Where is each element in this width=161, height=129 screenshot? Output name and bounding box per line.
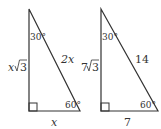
top-angle-label: 30° [102,32,118,42]
triangle-outline [101,9,158,111]
vertical-side-radicand: 3 [92,61,99,74]
hypotenuse-label: 14 [135,53,149,66]
triangle-general: 30° 60° 2x x x 3 [8,9,81,129]
hypotenuse-label: 2x [60,53,75,66]
right-angle-marker [101,103,109,111]
triangle-example: 30° 60° 14 7 7 3 [81,9,158,129]
bottom-right-angle-label: 60° [140,100,156,110]
bottom-right-angle-label: 60° [65,100,81,110]
vertical-side-label: x 3 [8,60,27,74]
triangles-diagram: 30° 60° 2x x x 3 30° 60° 14 7 7 3 [0,0,161,129]
vertical-side-label: 7 3 [81,60,99,74]
vertical-side-coefficient: 7 [81,61,88,74]
vertical-side-coefficient: x [8,61,15,74]
vertical-side-radicand: 3 [20,61,27,74]
base-label: x [51,116,58,129]
right-angle-marker [29,103,37,111]
top-angle-label: 30° [30,32,46,42]
base-label: 7 [124,116,131,129]
